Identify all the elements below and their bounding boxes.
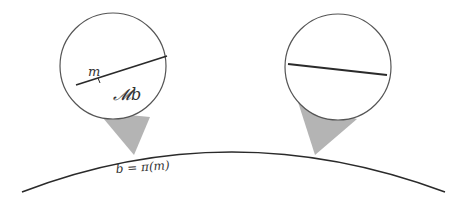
fiber-bundle-diagram: m 𝓜b b = π(m) xyxy=(0,0,462,204)
label-base-point: b = π(m) xyxy=(115,158,170,176)
label-fiber: 𝓜b xyxy=(113,85,141,104)
base-curve xyxy=(22,152,445,192)
right-fiber-circle xyxy=(285,14,391,120)
label-m: m xyxy=(88,64,100,79)
